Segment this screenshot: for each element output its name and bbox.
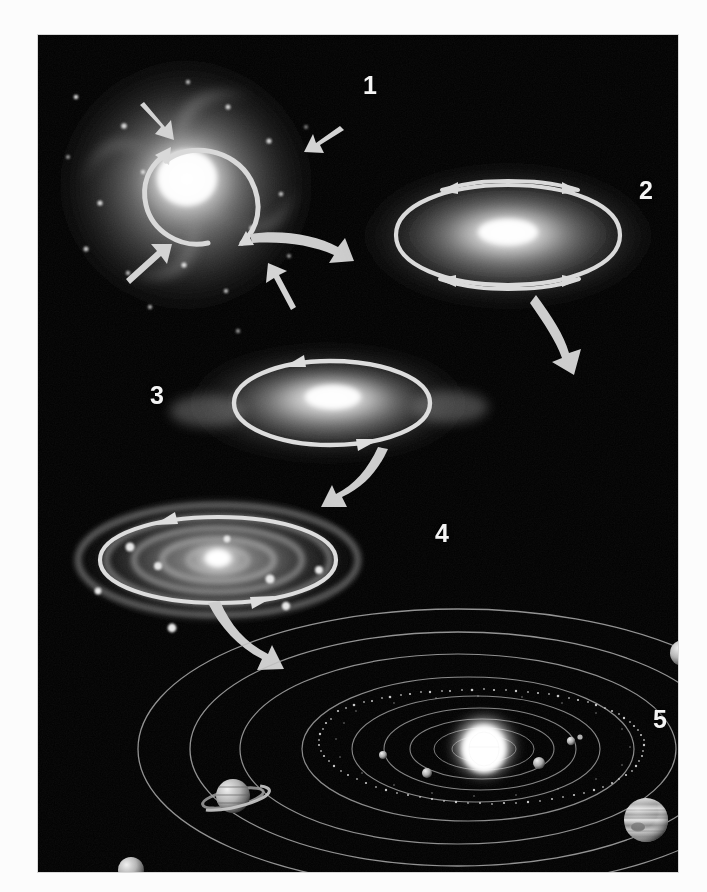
illustration-plate: 1 2 3 4 5 [38,35,678,872]
stage-label-4: 4 [435,521,449,546]
stage-label-1: 1 [363,73,377,98]
figure-root: 1 2 3 4 5 Nebular hypothesis: formation … [0,0,707,892]
stage-label-5: 5 [653,707,667,732]
stage-label-2: 2 [639,178,653,203]
stage-label-3: 3 [150,383,164,408]
film-grain [38,35,678,872]
